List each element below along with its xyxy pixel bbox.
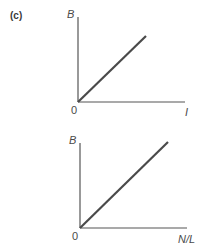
chart-bottom: [80, 142, 187, 228]
origin-label: 0: [72, 231, 78, 242]
chart-top: [78, 17, 185, 102]
x-axis-label: N/L: [178, 234, 195, 245]
charts-canvas: [0, 0, 210, 249]
data-line: [78, 36, 146, 102]
x-axis-label: I: [185, 107, 188, 118]
origin-label: 0: [71, 105, 77, 116]
y-axis-label: B: [67, 9, 74, 20]
y-axis-label: B: [69, 135, 76, 146]
data-line: [80, 142, 168, 228]
